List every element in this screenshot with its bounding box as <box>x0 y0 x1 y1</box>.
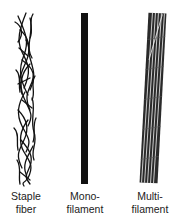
multifilament-label: Multi- filament <box>120 190 179 216</box>
staple-fiber-label-line1: Staple <box>0 190 56 203</box>
monofilament-label-line1: Mono- <box>55 190 115 203</box>
yarn-illustrations <box>0 0 179 222</box>
monofilament-label: Mono- filament <box>55 190 115 216</box>
multifilament-label-line1: Multi- <box>120 190 179 203</box>
staple-fiber-label-line2: fiber <box>0 203 56 216</box>
monofilament-label-line2: filament <box>55 203 115 216</box>
multifilament-illustration <box>140 13 167 184</box>
staple-fiber-label: Staple fiber <box>0 190 56 216</box>
monofilament-illustration <box>81 13 88 184</box>
staple-fiber-illustration <box>14 13 36 186</box>
yarn-types-diagram: Staple fiber Mono- filament Multi- filam… <box>0 0 179 222</box>
multifilament-label-line2: filament <box>120 203 179 216</box>
